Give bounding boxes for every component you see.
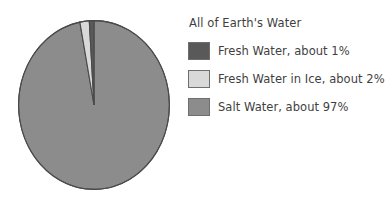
legend-label-fresh-water-in-ice: Fresh Water in Ice, about 2% (218, 72, 385, 86)
chart-title: All of Earth's Water (189, 16, 373, 30)
legend-label-salt-water: Salt Water, about 97% (218, 100, 348, 114)
chart-legend: All of Earth's Water Fresh Water, about … (188, 16, 373, 116)
legend-swatch-fresh-water-in-ice (188, 70, 210, 88)
pie-slices (19, 21, 170, 190)
pie-chart-graphic (18, 20, 170, 190)
legend-swatch-fresh-water (188, 42, 210, 60)
legend-item-fresh-water[interactable]: Fresh Water, about 1% (188, 41, 373, 60)
legend-label-fresh-water: Fresh Water, about 1% (218, 44, 350, 58)
legend-swatch-salt-water (188, 98, 210, 116)
legend-item-fresh-water-in-ice[interactable]: Fresh Water in Ice, about 2% (188, 69, 373, 88)
legend-list: Fresh Water, about 1% Fresh Water in Ice… (188, 41, 373, 116)
legend-item-salt-water[interactable]: Salt Water, about 97% (188, 97, 373, 116)
pie-svg (18, 20, 170, 190)
